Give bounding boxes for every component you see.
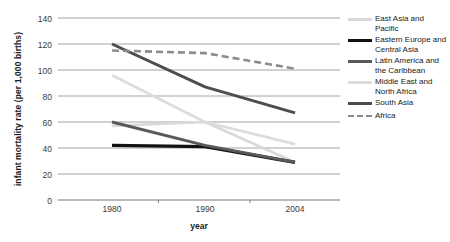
legend-item-label: Latin America and the Caribbean	[375, 56, 448, 75]
legend-item-label: Africa	[375, 111, 395, 121]
legend-item-label: East Asia and Pacific	[375, 14, 448, 33]
series-line-africa	[112, 51, 295, 69]
legend-item-eastern-europe-and-central-asia[interactable]: Eastern Europe and Central Asia	[348, 35, 448, 54]
legend-item-label: South Asia	[375, 98, 413, 108]
legend-swatch-icon	[348, 98, 372, 109]
data-series-group	[112, 44, 295, 162]
legend-swatch-icon	[348, 35, 372, 46]
x-tick-1990: 1990	[180, 204, 230, 214]
legend-swatch-icon	[348, 111, 372, 122]
legend-swatch-icon	[348, 14, 372, 25]
legend-swatch-icon	[348, 56, 372, 67]
gridlines	[58, 18, 340, 200]
legend-item-east-asia-and-pacific[interactable]: East Asia and Pacific	[348, 14, 448, 33]
chart-legend: East Asia and PacificEastern Europe and …	[348, 14, 448, 124]
legend-item-south-asia[interactable]: South Asia	[348, 98, 448, 109]
legend-item-label: Middle East and North Africa	[375, 77, 448, 96]
x-axis-title: year	[58, 221, 340, 231]
legend-item-middle-east-and-north-africa[interactable]: Middle East and North Africa	[348, 77, 448, 96]
series-line-latin-america-and-the-caribbean	[112, 122, 295, 162]
legend-item-africa[interactable]: Africa	[348, 111, 448, 122]
legend-swatch-icon	[348, 77, 372, 88]
x-tick-1980: 1980	[87, 204, 137, 214]
x-tick-2004: 2004	[270, 204, 320, 214]
legend-item-label: Eastern Europe and Central Asia	[375, 35, 448, 54]
legend-item-latin-america-and-the-caribbean[interactable]: Latin America and the Caribbean	[348, 56, 448, 75]
infant-mortality-line-chart: infant mortality rate (per 1,000 births)…	[0, 0, 450, 242]
